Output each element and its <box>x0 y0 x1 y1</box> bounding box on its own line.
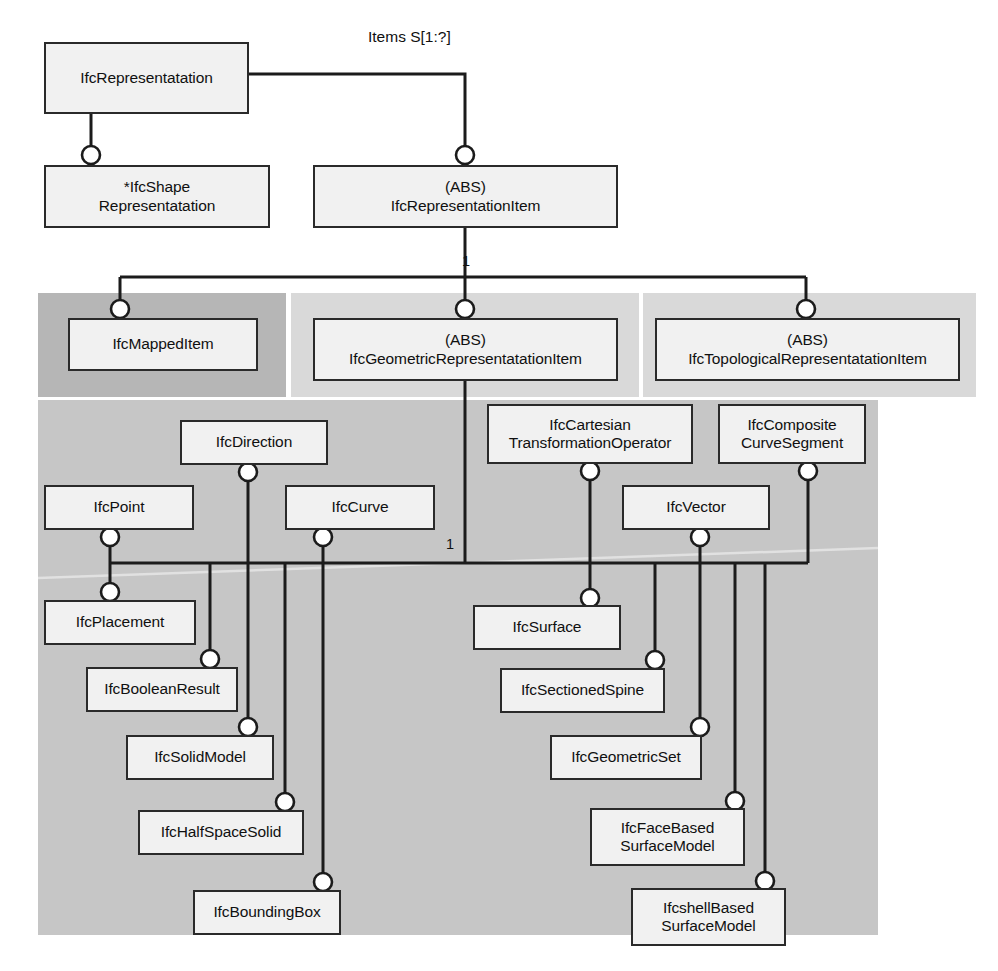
circle-ifc-placement <box>101 583 119 601</box>
circle-mapped-item <box>111 300 129 318</box>
entity-ifcshell-based-surface-model[interactable]: IfcshellBased SurfaceModel <box>631 888 786 946</box>
circle-ifc-solid-model <box>239 718 257 736</box>
circle-ifc-direction <box>239 463 257 481</box>
circle-ifc-boolean-result <box>201 650 219 668</box>
circle-ifc-bounding-box <box>314 873 332 891</box>
attribute-label-items: Items S[1:?] <box>368 28 451 46</box>
entity-ifc-geometric-representatation-item[interactable]: (ABS) IfcGeometricRepresentatationItem <box>313 318 618 381</box>
circle-geometric-item <box>456 300 474 318</box>
entity-ifc-topological-representatation-item[interactable]: (ABS) IfcTopologicalRepresentatationItem <box>655 318 960 381</box>
circle-ifc-cartesian <box>581 462 599 480</box>
circle-ifc-composite <box>799 462 817 480</box>
entity-ifc-placement[interactable]: IfcPlacement <box>44 600 196 645</box>
entity-ifc-boolean-result[interactable]: IfcBooleanResult <box>86 667 238 712</box>
circle-shape-representatation <box>82 146 100 164</box>
link-items-attribute <box>249 74 465 150</box>
circle-ifc-vector <box>691 528 709 546</box>
entity-ifc-face-based-surface-model[interactable]: IfcFaceBased SurfaceModel <box>590 808 745 866</box>
circle-ifc-half-space-solid <box>276 793 294 811</box>
entity-ifc-cartesian-transformation-operator[interactable]: IfcCartesian TransformationOperator <box>487 404 693 464</box>
entity-ifc-solid-model[interactable]: IfcSolidModel <box>126 735 274 780</box>
entity-ifc-curve[interactable]: IfcCurve <box>285 485 435 530</box>
entity-ifc-geometric-set[interactable]: IfcGeometricSet <box>550 735 702 780</box>
entity-ifc-composite-curve-segment[interactable]: IfcComposite CurveSegment <box>718 404 866 464</box>
entity-ifc-representatation[interactable]: IfcRepresentatation <box>44 42 249 114</box>
circle-ifc-point <box>101 528 119 546</box>
circle-ifc-curve <box>314 528 332 546</box>
entity-ifc-point[interactable]: IfcPoint <box>44 485 194 530</box>
entity-ifc-half-space-solid[interactable]: IfcHalfSpaceSolid <box>138 810 304 855</box>
circle-ifc-geometric-set <box>691 718 709 736</box>
entity-ifc-surface[interactable]: IfcSurface <box>473 605 621 650</box>
entity-ifc-representation-item[interactable]: (ABS) IfcRepresentationItem <box>313 165 618 228</box>
entity-ifc-vector[interactable]: IfcVector <box>622 485 770 530</box>
circle-representation-item <box>456 146 474 164</box>
entity-ifc-shape-representatation[interactable]: *IfcShape Representatation <box>44 165 270 228</box>
cardinality-label-middle: 1 <box>446 536 454 552</box>
entity-ifc-mapped-item[interactable]: IfcMappedItem <box>68 318 258 371</box>
circle-ifc-sectioned-spine <box>646 651 664 669</box>
entity-ifc-sectioned-spine[interactable]: IfcSectionedSpine <box>500 668 665 713</box>
express-g-diagram: IfcRepresentatation *IfcShape Representa… <box>0 0 998 971</box>
entity-ifc-direction[interactable]: IfcDirection <box>180 420 328 465</box>
cardinality-label-top: 1 <box>462 253 470 269</box>
circle-topological-item <box>797 300 815 318</box>
entity-ifc-bounding-box[interactable]: IfcBoundingBox <box>193 890 341 935</box>
